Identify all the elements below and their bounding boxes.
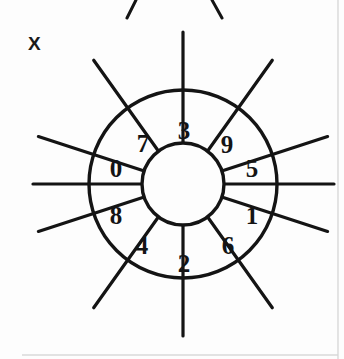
sector-label-7: 7 — [137, 130, 150, 157]
sector-label-8: 8 — [110, 202, 123, 229]
sector-label-0: 0 — [110, 155, 123, 182]
sector-label-2: 2 — [178, 250, 191, 277]
inner-circle — [142, 143, 224, 225]
spoke — [207, 216, 272, 308]
partial-wheel-above-group — [127, 0, 222, 18]
numbered-wheel-diagram: 3 9 5 1 6 2 4 8 0 7 — [0, 0, 344, 359]
sector-label-6: 6 — [222, 232, 235, 259]
sector-label-3: 3 — [178, 117, 191, 144]
spoke — [207, 60, 272, 152]
sector-label-5: 5 — [246, 155, 259, 182]
sector-label-9: 9 — [221, 131, 234, 158]
sector-label-1: 1 — [246, 202, 259, 229]
partial-spoke-fragment — [212, 0, 222, 18]
partial-spoke-fragment — [127, 0, 136, 18]
spoke — [94, 216, 159, 308]
sector-label-4: 4 — [136, 232, 149, 259]
figure-page: X 3 9 5 1 6 2 4 8 — [0, 0, 344, 359]
